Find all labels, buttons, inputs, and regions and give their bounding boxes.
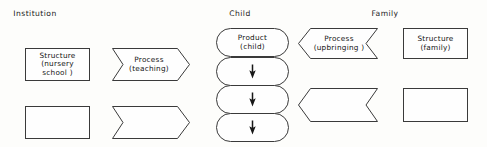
institution-structure-box: Structure (nursery school ): [25, 48, 90, 81]
family-process-chevron: Process (upbringing ): [298, 28, 378, 59]
column-header-child: Child: [229, 9, 250, 18]
child-cell-product: Product (child): [216, 28, 289, 57]
family-structure-box-blank: [403, 88, 468, 122]
column-header-institution: Institution: [13, 9, 56, 18]
institution-structure-box-blank: [25, 106, 90, 139]
institution-process-chevron: Process (teaching): [112, 48, 190, 81]
family-process-chevron-blank: [298, 88, 378, 122]
institution-process-chevron-blank: [112, 106, 190, 139]
child-cell-flow-2: [216, 85, 289, 114]
diagram-canvas: Institution Child Family Structure (nurs…: [0, 0, 487, 147]
child-cell-flow-3: [216, 113, 289, 142]
family-structure-box: Structure (family): [403, 28, 468, 59]
column-header-family: Family: [371, 9, 398, 18]
child-cell-flow-1: [216, 57, 289, 86]
